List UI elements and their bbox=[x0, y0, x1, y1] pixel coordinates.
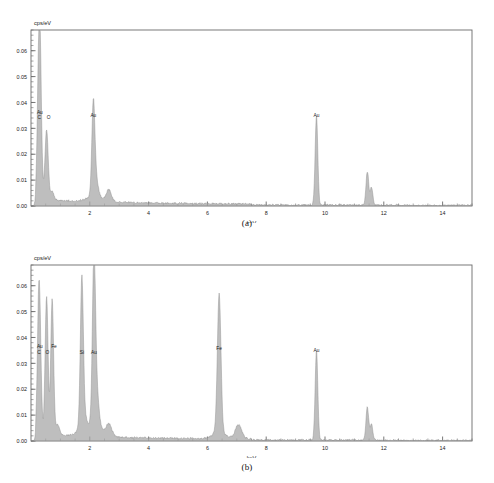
x-axis-label: keV bbox=[247, 455, 257, 458]
y-tick-label: 0.03 bbox=[17, 361, 28, 367]
x-tick-label: 4 bbox=[147, 210, 150, 216]
spectrum-panel-b: 0.000.010.020.030.040.050.062468101214cp… bbox=[0, 243, 494, 483]
y-tick-label: 0.04 bbox=[17, 335, 28, 341]
spectrum-panel-a: 0.000.010.020.030.040.050.062468101214cp… bbox=[0, 8, 494, 240]
x-tick-label: 6 bbox=[206, 210, 209, 216]
peak-label-si: Si bbox=[80, 350, 84, 355]
x-tick-label: 4 bbox=[147, 445, 150, 451]
x-tick-label: 12 bbox=[381, 445, 387, 451]
eds-spectra-figure: 0.000.010.020.030.040.050.062468101214cp… bbox=[0, 0, 494, 483]
x-tick-label: 8 bbox=[265, 210, 268, 216]
y-tick-label: 0.02 bbox=[17, 151, 28, 157]
peak-label-au: Au bbox=[314, 113, 320, 118]
y-tick-label: 0.01 bbox=[17, 412, 28, 418]
y-tick-label: 0.00 bbox=[17, 438, 28, 444]
y-axis-label: cps/eV bbox=[34, 20, 51, 26]
peak-label-fe: Fe bbox=[51, 344, 57, 349]
caption-b: (b) bbox=[0, 462, 494, 472]
peak-label-o: O bbox=[46, 350, 50, 355]
peak-label-c: C bbox=[37, 350, 41, 355]
spectrum-trace bbox=[31, 30, 472, 206]
peak-label-c: C bbox=[37, 115, 41, 120]
peak-label-au: Au bbox=[90, 113, 96, 118]
y-tick-label: 0.04 bbox=[17, 100, 28, 106]
x-tick-label: 8 bbox=[265, 445, 268, 451]
spectrum-trace bbox=[31, 265, 472, 441]
x-tick-label: 14 bbox=[440, 210, 446, 216]
x-tick-label: 10 bbox=[322, 210, 328, 216]
x-tick-label: 14 bbox=[440, 445, 446, 451]
y-axis-label: cps/eV bbox=[34, 255, 51, 261]
peak-label-au: Au bbox=[91, 350, 97, 355]
peak-label-au: Au bbox=[314, 348, 320, 353]
y-tick-label: 0.06 bbox=[17, 48, 28, 54]
x-tick-label: 6 bbox=[206, 445, 209, 451]
x-tick-label: 2 bbox=[88, 445, 91, 451]
peak-label-au: Au bbox=[37, 344, 43, 349]
peak-label-fe: Fe bbox=[216, 346, 222, 351]
y-tick-label: 0.03 bbox=[17, 126, 28, 132]
y-tick-label: 0.00 bbox=[17, 203, 28, 209]
spectrum-plot-b: 0.000.010.020.030.040.050.062468101214cp… bbox=[0, 243, 494, 458]
y-tick-label: 0.05 bbox=[17, 309, 28, 315]
y-tick-label: 0.02 bbox=[17, 386, 28, 392]
spectrum-plot-a: 0.000.010.020.030.040.050.062468101214cp… bbox=[0, 8, 494, 223]
peak-label-o: O bbox=[47, 115, 51, 120]
x-tick-label: 12 bbox=[381, 210, 387, 216]
y-tick-label: 0.01 bbox=[17, 177, 28, 183]
y-tick-label: 0.05 bbox=[17, 74, 28, 80]
x-tick-label: 2 bbox=[88, 210, 91, 216]
caption-a: (a) bbox=[0, 218, 494, 228]
x-tick-label: 10 bbox=[322, 445, 328, 451]
y-tick-label: 0.06 bbox=[17, 283, 28, 289]
